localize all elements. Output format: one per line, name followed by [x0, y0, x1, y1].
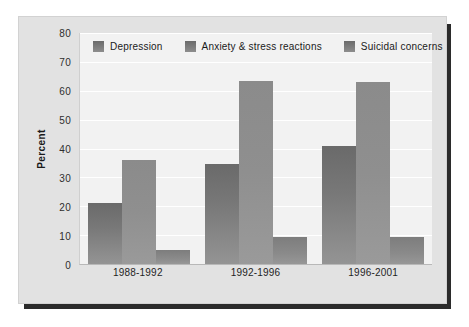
legend-item: Depression	[93, 41, 163, 52]
plot-area	[79, 33, 432, 265]
bar	[390, 237, 424, 264]
x-axis-tick-label: 1992-1996	[197, 267, 315, 289]
bar	[356, 82, 390, 264]
y-axis-tick-label: 60	[59, 86, 71, 97]
x-axis-tick-label: 1996-2001	[314, 267, 432, 289]
y-axis-tick-label: 40	[59, 144, 71, 155]
legend-swatch-icon	[344, 41, 355, 52]
legend-swatch-icon	[93, 41, 104, 52]
y-axis: 80706050403020100	[19, 33, 77, 265]
legend-label: Depression	[110, 41, 163, 52]
legend-swatch-icon	[185, 41, 196, 52]
y-axis-tick-label: 10	[59, 231, 71, 242]
chart-legend: DepressionAnxiety & stress reactionsSuic…	[93, 41, 443, 52]
y-axis-tick-label: 30	[59, 173, 71, 184]
bar-group	[80, 33, 197, 264]
chart-screenshot: Percent 80706050403020100 DepressionAnxi…	[0, 0, 469, 327]
y-axis-tick-label: 20	[59, 202, 71, 213]
legend-item: Anxiety & stress reactions	[185, 41, 322, 52]
y-axis-tick-label: 0	[65, 260, 71, 271]
y-axis-tick-label: 50	[59, 115, 71, 126]
bar	[239, 81, 273, 264]
bar	[273, 237, 307, 264]
bar	[88, 203, 122, 264]
bar-group	[315, 33, 432, 264]
plot-wrapper: DepressionAnxiety & stress reactionsSuic…	[79, 33, 432, 265]
bar	[322, 146, 356, 264]
y-axis-tick-label: 70	[59, 57, 71, 68]
bar-groups	[80, 33, 432, 264]
bar	[156, 250, 190, 264]
legend-label: Suicidal concerns	[361, 41, 443, 52]
x-axis-tick-label: 1988-1992	[79, 267, 197, 289]
legend-label: Anxiety & stress reactions	[202, 41, 322, 52]
bar-group	[197, 33, 314, 264]
bar	[205, 164, 239, 264]
legend-item: Suicidal concerns	[344, 41, 443, 52]
bar-chart-card: Percent 80706050403020100 DepressionAnxi…	[18, 16, 447, 304]
x-axis: 1988-19921992-19961996-2001	[79, 267, 432, 289]
bar	[122, 160, 156, 264]
y-axis-tick-label: 80	[59, 28, 71, 39]
